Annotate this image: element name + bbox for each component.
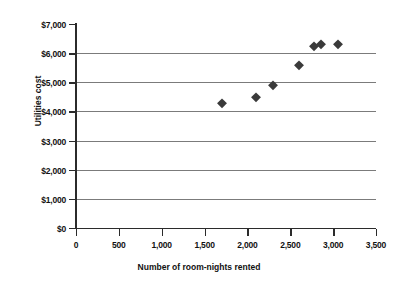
x-axis-tick-label: 500 <box>112 240 126 250</box>
data-point <box>294 60 303 69</box>
gridline <box>76 111 376 112</box>
y-axis-tick-label: $1,000 <box>41 195 66 205</box>
y-axis-tick <box>69 111 76 112</box>
y-axis-tick-label: $0 <box>57 224 66 234</box>
data-point <box>317 40 326 49</box>
x-axis-tick <box>290 229 291 236</box>
y-axis-tick <box>69 82 76 83</box>
y-axis-title: Utilities cost <box>33 41 43 161</box>
gridline <box>76 199 376 200</box>
scatter-chart: $0 $1,000 $2,000 $3,000 $4,000 $5,000 $6… <box>0 0 398 288</box>
x-axis-tick <box>76 229 77 236</box>
plot-area <box>76 24 376 228</box>
y-axis-tick-label: $5,000 <box>41 78 66 88</box>
x-axis-title: Number of room-nights rented <box>0 262 398 272</box>
y-axis-tick <box>69 228 76 229</box>
gridline <box>76 82 376 83</box>
x-axis-tick-label: 3,500 <box>366 240 386 250</box>
gridline <box>76 170 376 171</box>
data-point <box>334 40 343 49</box>
y-axis-tick <box>69 199 76 200</box>
x-axis-line <box>76 228 376 230</box>
x-axis-tick <box>247 229 248 236</box>
y-axis-tick-label: $2,000 <box>41 166 66 176</box>
x-axis-tick <box>376 229 377 236</box>
x-axis-tick-label: 1,000 <box>152 240 172 250</box>
y-axis-tick-label: $7,000 <box>41 20 66 30</box>
gridline <box>76 53 376 54</box>
gridline <box>76 141 376 142</box>
x-axis-tick-label: 1,500 <box>194 240 214 250</box>
x-axis-tick-label: 3,000 <box>323 240 343 250</box>
x-axis-tick-label: 2,000 <box>237 240 257 250</box>
x-axis-tick <box>205 229 206 236</box>
y-axis-tick <box>69 53 76 54</box>
y-axis-tick-label: $3,000 <box>41 137 66 147</box>
data-point <box>217 98 226 107</box>
x-axis-tick <box>162 229 163 236</box>
y-axis-tick <box>69 141 76 142</box>
x-axis-tick-label: 0 <box>74 240 79 250</box>
y-axis-tick-label: $6,000 <box>41 49 66 59</box>
y-axis-tick <box>69 170 76 171</box>
x-axis-tick-label: 2,500 <box>280 240 300 250</box>
data-point <box>251 92 260 101</box>
x-axis-tick <box>119 229 120 236</box>
y-axis-tick <box>69 24 76 25</box>
y-axis-tick-label: $4,000 <box>41 107 66 117</box>
x-axis-tick <box>333 229 334 236</box>
